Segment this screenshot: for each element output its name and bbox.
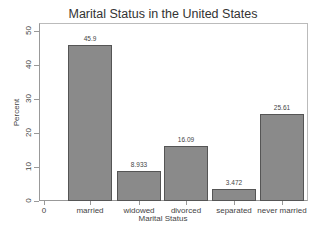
- bar-married: [68, 45, 112, 201]
- y-tick: [34, 99, 39, 100]
- bar-value-label: 3.472: [209, 179, 259, 186]
- x-tick: [139, 201, 140, 205]
- x-axis-title: Marital Status: [0, 214, 326, 223]
- y-tick-label: 40: [24, 55, 33, 75]
- y-tick: [34, 65, 39, 66]
- y-tick-label: 20: [24, 123, 33, 143]
- bar-divorced: [164, 146, 208, 201]
- chart-title: Marital Status in the United States: [0, 7, 326, 21]
- y-tick: [34, 167, 39, 168]
- y-tick-label: 10: [24, 157, 33, 177]
- x-tick: [282, 201, 283, 205]
- x-tick: [186, 201, 187, 205]
- y-tick-label: 50: [24, 21, 33, 41]
- bar-value-label: 8.933: [114, 161, 164, 168]
- x-tick: [234, 201, 235, 205]
- y-axis-title: Percent: [12, 93, 21, 133]
- x-tick-zero: [44, 201, 45, 205]
- bar-value-label: 25.61: [257, 104, 307, 111]
- x-tick: [90, 201, 91, 205]
- bar-never-married: [260, 114, 304, 201]
- y-tick: [34, 31, 39, 32]
- bar-value-label: 45.9: [65, 35, 115, 42]
- bar-widowed: [117, 171, 161, 201]
- bar-value-label: 16.09: [161, 136, 211, 143]
- y-tick-label: 30: [24, 89, 33, 109]
- y-tick: [34, 201, 39, 202]
- y-tick: [34, 133, 39, 134]
- bar-separated: [212, 189, 256, 201]
